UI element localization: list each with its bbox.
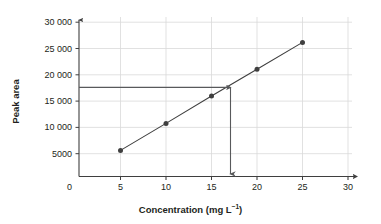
x-tick-label-10: 10 [161, 182, 171, 192]
chart-screenshot: 30 000 25 000 20 000 15 000 10 000 5000 … [0, 0, 381, 224]
data-point [255, 67, 260, 72]
x-tick-label-5: 5 [118, 182, 123, 192]
x-tick-label-30: 30 [343, 182, 353, 192]
y-tick-label-25000: 25 000 [28, 44, 72, 54]
x-axis-title-exponent: −1 [232, 203, 239, 210]
x-tick-label-20: 20 [252, 182, 262, 192]
x-axis-title-text: Concentration (mg L [139, 204, 232, 215]
y-tick-label-20000: 20 000 [28, 70, 72, 80]
data-point [118, 148, 123, 153]
data-point [300, 40, 305, 45]
vertical-gridlines [121, 17, 349, 180]
data-point [209, 94, 214, 99]
x-axis-title-tail: ) [239, 204, 242, 215]
data-point [164, 121, 169, 126]
x-tick-label-15: 15 [206, 182, 216, 192]
y-tick-label-5000: 5000 [28, 149, 72, 159]
y-tick-label-10000: 10 000 [28, 122, 72, 132]
y-tick-label-15000: 15 000 [28, 96, 72, 106]
y-axis-title: Peak area [10, 72, 21, 132]
x-axis-title: Concentration (mg L−1) [0, 204, 381, 215]
x-tick-label-25: 25 [297, 182, 307, 192]
y-tick-label-0: 0 [28, 182, 72, 192]
y-tick-label-30000: 30 000 [28, 17, 72, 27]
